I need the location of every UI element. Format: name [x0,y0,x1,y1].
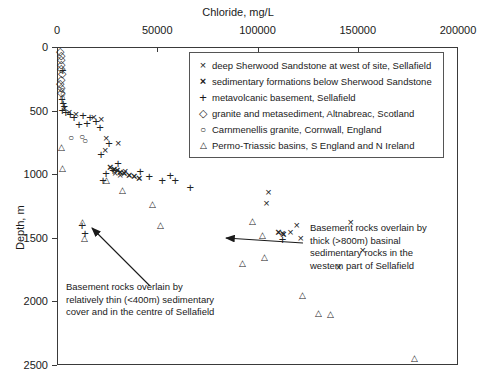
y-tick-label: 0 [8,41,48,53]
data-point: + [136,164,144,177]
data-point: × [287,227,293,238]
data-point: × [293,219,299,230]
legend-marker-x-icon: × [194,59,212,71]
data-point: × [297,232,303,243]
annotation-line: sedimentary rocks in the [310,247,470,260]
data-point: △ [58,143,65,152]
data-point: △ [157,221,164,230]
x-tick-label: 150000 [323,24,393,36]
y-tick-label: 2000 [8,295,48,307]
legend-item-label: metavolcanic basement, Sellafield [212,92,438,103]
data-point: + [187,181,195,194]
y-tick-label: 1000 [8,168,48,180]
thin-cover-annotation: Basement rocks overlain byrelatively thi… [66,281,256,319]
legend-item-label: sedimentary formations below Sherwood Sa… [212,76,438,87]
data-point: △ [79,218,86,227]
x-tick-label: 100000 [223,24,293,36]
data-point: ○ [82,136,88,146]
data-point: + [97,147,105,160]
data-point: + [279,232,287,245]
data-point: △ [239,258,246,267]
data-point: △ [149,199,156,208]
x-axis-title: Chloride, mg/L [0,6,476,18]
legend-item: +metavolcanic basement, Sellafield [194,89,438,105]
data-point: × [263,197,269,208]
x-tick-label: 50000 [122,24,192,36]
data-point: △ [59,163,66,172]
data-point: × [115,137,121,148]
data-point: △ [411,353,418,362]
legend-item-label: granite and metasediment, Altnabreac, Sc… [212,108,438,119]
data-point: + [171,174,179,187]
data-point: △ [119,186,126,195]
data-point: △ [81,233,88,242]
legend-item: ×sedimentary formations below Sherwood S… [194,73,438,89]
data-point: △ [315,309,322,318]
data-point: + [96,120,104,133]
legend-marker-triangle-icon: △ [194,140,212,150]
data-point: △ [259,230,266,239]
annotation-line: thick (>800m) basinal [310,235,470,248]
legend-item: ×deep Sherwood Sandstone at west of site… [194,57,438,73]
annotation-line: Basement rocks overlain by [66,281,256,294]
data-point: △ [299,291,306,300]
data-point: + [158,173,166,186]
legend-marker-plus-icon: + [194,90,212,105]
y-tick-mark [52,365,57,366]
annotation-line: western part of Sellafield [310,260,470,273]
data-point: △ [327,309,334,318]
data-point: ○ [59,93,65,103]
legend-item: △Permo-Triassic basins, S England and N … [194,137,438,153]
annotation-line: cover and in the centre of Sellafield [66,306,256,319]
y-tick-label: 2500 [8,359,48,371]
annotation-line: Basement rocks overlain by [310,222,470,235]
legend-item-label: Permo-Triassic basins, S England and N I… [212,140,438,151]
legend-item-label: deep Sherwood Sandstone at west of site,… [212,60,438,71]
annotation-line: relatively thin (<400m) sedimentary [66,294,256,307]
data-point: △ [261,252,268,261]
data-point: + [83,117,91,130]
x-tick-label: 200000 [423,24,481,36]
legend-item: ◇granite and metasediment, Altnabreac, S… [194,105,438,121]
thick-basinal-annotation: Basement rocks overlain bythick (>800m) … [310,222,470,272]
legend-item-label: Carnmenellis granite, Cornwall, England [212,124,438,135]
data-point: ○ [68,133,74,143]
x-tick-label: 0 [22,24,92,36]
chart-legend: ×deep Sherwood Sandstone at west of site… [189,52,444,158]
y-tick-label: 500 [8,105,48,117]
legend-marker-x-bold-icon: × [194,75,212,87]
legend-item: ○Carnmenellis granite, Cornwall, England [194,121,438,137]
data-point: + [105,136,113,149]
data-point: △ [103,176,110,185]
data-point: + [109,164,117,177]
data-point: + [145,170,153,183]
legend-marker-diamond-icon: ◇ [194,107,212,120]
y-tick-label: 1500 [8,232,48,244]
data-point: + [75,118,83,131]
legend-marker-circle-icon: ○ [194,124,212,135]
data-point: △ [249,216,256,225]
